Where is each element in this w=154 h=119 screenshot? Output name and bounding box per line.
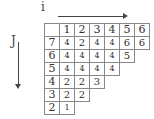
value-cell: 4 (59, 36, 74, 49)
i-axis-label: i (41, 0, 45, 14)
right-arrow-icon (58, 16, 124, 17)
value-cell: 4 (104, 36, 119, 49)
value-cell: 4 (89, 62, 104, 75)
j-axis-label: J (11, 34, 16, 48)
value-cell: 5 (119, 49, 135, 63)
value-cell: 2 (74, 88, 90, 102)
header-cell: 6 (134, 23, 150, 36)
header-row: 1 2 3 4 5 6 (44, 23, 150, 36)
value-cell: 3 (89, 75, 105, 89)
value-cell: 2 (59, 88, 74, 101)
value-cell: 4 (59, 49, 74, 62)
value-cell: 4 (74, 62, 89, 75)
value-cell: 4 (104, 62, 120, 76)
value-cell: 2 (74, 36, 89, 49)
table-row: 7 4 2 4 4 6 6 (44, 36, 150, 49)
value-cell: 1 (59, 101, 75, 115)
value-cell: 4 (74, 49, 89, 62)
header-cell: 2 (74, 23, 89, 36)
row-header: 3 (44, 88, 59, 101)
value-cell: 6 (134, 36, 150, 50)
corner-cell (44, 23, 59, 36)
value-cell: 6 (119, 36, 134, 49)
value-cell: 2 (74, 75, 89, 88)
table-row: 2 1 (44, 101, 150, 114)
table-row: 6 4 4 4 4 5 (44, 49, 150, 62)
header-cell: 5 (119, 23, 134, 36)
value-cell: 4 (59, 62, 74, 75)
row-header: 4 (44, 75, 59, 88)
row-header: 2 (44, 101, 59, 115)
value-cell: 4 (104, 49, 119, 62)
header-cell: 3 (89, 23, 104, 36)
table-row: 3 2 2 (44, 88, 150, 101)
row-header: 5 (44, 62, 59, 75)
header-cell: 1 (59, 23, 74, 36)
down-arrow-icon (18, 42, 19, 85)
row-header: 7 (44, 36, 59, 49)
value-cell: 4 (89, 49, 104, 62)
header-cell: 4 (104, 23, 119, 36)
row-header: 6 (44, 49, 59, 62)
value-cell: 4 (89, 36, 104, 49)
table-row: 5 4 4 4 4 (44, 62, 150, 75)
value-cell: 2 (59, 75, 74, 88)
table-row: 4 2 2 3 (44, 75, 150, 88)
triangular-table: 1 2 3 4 5 6 7 4 2 4 4 6 6 6 4 4 4 4 5 5 … (44, 23, 150, 114)
